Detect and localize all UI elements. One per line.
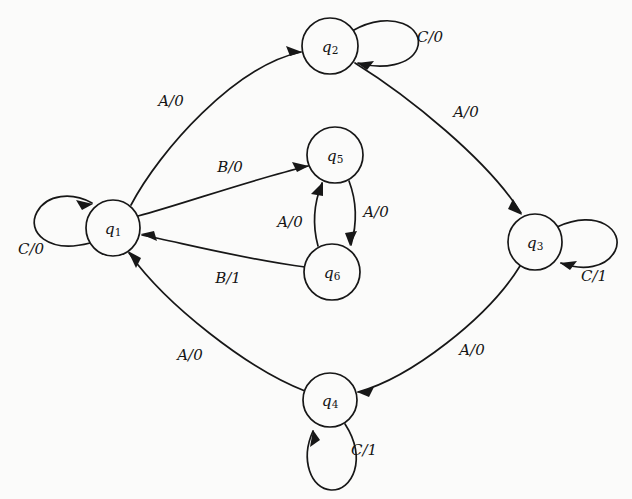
- transition-q2-to-q3: [355, 63, 522, 215]
- edge-label-q3-self: C/1: [581, 267, 607, 285]
- edge-label-q6-q5: A/0: [275, 213, 303, 231]
- transition-q3-self: [557, 220, 617, 270]
- arrowhead-q1-q2: [286, 46, 302, 56]
- edge-label-q3-q4: A/0: [457, 341, 485, 359]
- arrowhead-q6-q5: [311, 182, 323, 196]
- arrowhead-q3-q4: [357, 387, 374, 397]
- state-node-q2[interactable]: q2: [302, 18, 358, 74]
- loop-path-q2: [352, 21, 418, 66]
- edge-path-q3-q4: [358, 266, 520, 392]
- edge-label-q4-self: C/1: [351, 441, 377, 459]
- edge-label-q2-q3: A/0: [451, 103, 479, 121]
- edge-label-q1-self: C/0: [18, 240, 45, 258]
- edge-label-q4-q1: A/0: [175, 346, 203, 364]
- arrowhead-q2-q3: [508, 199, 522, 215]
- arrowhead-q1-q5: [292, 162, 309, 172]
- edge-path-q1-q2: [131, 52, 301, 205]
- edge-label-q1-q5: B/0: [216, 158, 243, 176]
- transition-q4-self: [307, 424, 356, 490]
- edge-label-q6-q1: B/1: [214, 269, 241, 287]
- edge-label-q2-self: C/0: [417, 28, 444, 46]
- edge-label-q5-q6: A/0: [361, 203, 389, 221]
- state-node-q1[interactable]: q1: [86, 200, 140, 256]
- state-node-q4[interactable]: q4: [303, 373, 357, 427]
- transition-q6-to-q5: [311, 182, 323, 246]
- edge-label-q1-q2: A/0: [156, 92, 184, 110]
- state-node-q3[interactable]: q3: [508, 214, 562, 270]
- loop-path-q3: [557, 220, 617, 267]
- state-node-q5[interactable]: q5: [307, 127, 363, 183]
- transition-q1-to-q2: [131, 46, 302, 205]
- transition-q1-self: [34, 196, 93, 246]
- arrowhead-q3-self: [560, 261, 577, 270]
- state-node-q6[interactable]: q6: [304, 244, 360, 300]
- edge-path-q2-q3: [355, 63, 521, 213]
- edge-path-q6-q1: [142, 235, 305, 267]
- arrowhead-q5-q6: [345, 231, 357, 246]
- fsm-canvas: q1 q2 q3 q4 q5 q6 A/0 C/0 A/0 C/1 A/0 C/…: [0, 0, 632, 499]
- transition-q6-to-q1: [141, 231, 305, 267]
- transition-q2-self: [352, 21, 418, 70]
- transition-q5-to-q6: [345, 181, 357, 246]
- transition-q3-to-q4: [357, 266, 520, 397]
- state-machine-diagram: q1 q2 q3 q4 q5 q6 A/0 C/0 A/0 C/1 A/0 C/…: [0, 0, 632, 499]
